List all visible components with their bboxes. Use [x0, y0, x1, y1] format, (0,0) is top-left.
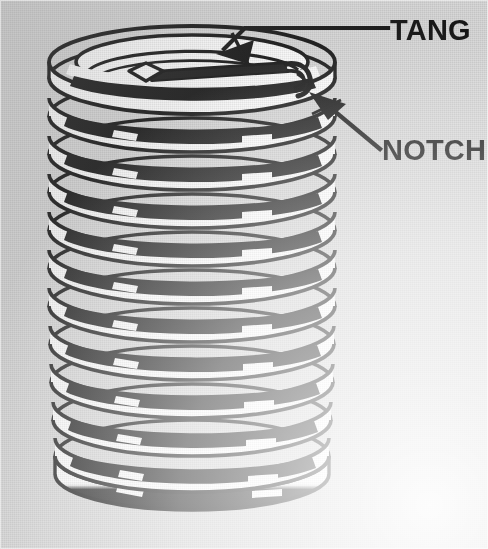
- figure-canvas: TANG NOTCH: [0, 0, 488, 549]
- coil-front-turns: [49, 98, 335, 510]
- tang-label: TANG: [390, 14, 471, 46]
- coil-illustration: TANG NOTCH: [0, 0, 488, 549]
- notch-label: NOTCH: [382, 134, 486, 166]
- coil-top-turn: [49, 26, 335, 116]
